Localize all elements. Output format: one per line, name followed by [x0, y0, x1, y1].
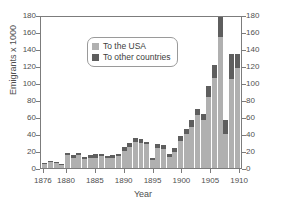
- y-tick-left-80: 80: [10, 97, 36, 105]
- bar-segment-other-1907: [218, 17, 223, 37]
- y-tick-right-180: 180: [246, 12, 276, 20]
- y-tick-right-40: 40: [246, 131, 276, 139]
- y-tickmark-right-80: [242, 101, 246, 102]
- bar-segment-usa-1907: [218, 37, 223, 168]
- bar-segment-other-1906: [212, 65, 217, 78]
- bar-segment-usa-1908: [223, 134, 228, 168]
- bar-1910: [235, 17, 240, 168]
- bar-segment-other-1910: [235, 54, 240, 68]
- y-tickmark-left-0: [36, 169, 40, 170]
- bar-1880: [65, 17, 70, 168]
- bar-1907: [218, 17, 223, 168]
- bar-segment-usa-1906: [212, 78, 217, 168]
- y-tickmark-right-60: [242, 118, 246, 119]
- bar-segment-usa-1903: [195, 115, 200, 168]
- bar-1909: [229, 17, 234, 168]
- x-tick-1905: 1905: [201, 176, 219, 185]
- x-tick-1890: 1890: [115, 176, 133, 185]
- bar-segment-usa-1876: [42, 164, 47, 168]
- bar-segment-usa-1881: [71, 158, 76, 168]
- y-tickmark-left-160: [36, 33, 40, 34]
- x-tickmark-1895: [153, 169, 154, 173]
- bar-1900: [178, 17, 183, 168]
- x-tickmark-1910: [239, 169, 240, 173]
- bar-segment-usa-1904: [201, 120, 206, 168]
- bar-segment-usa-1890: [122, 151, 127, 168]
- y-tickmark-right-40: [242, 135, 246, 136]
- bar-segment-usa-1886: [99, 156, 104, 168]
- x-axis-label: Year: [0, 189, 286, 199]
- y-tick-right-140: 140: [246, 46, 276, 54]
- y-tickmark-right-160: [242, 33, 246, 34]
- y-tickmark-right-120: [242, 67, 246, 68]
- x-tick-1910: 1910: [230, 176, 248, 185]
- bar-segment-usa-1882: [76, 155, 81, 168]
- y-tick-right-60: 60: [246, 114, 276, 122]
- y-tick-left-120: 120: [10, 63, 36, 71]
- x-tick-1876: 1876: [34, 176, 52, 185]
- bar-segment-usa-1880: [65, 155, 70, 168]
- y-tickmark-right-100: [242, 84, 246, 85]
- y-tick-right-20: 20: [246, 148, 276, 156]
- plot-area: To the USA To other countries: [40, 16, 242, 169]
- bar-segment-usa-1897: [161, 149, 166, 168]
- bar-segment-usa-1887: [105, 158, 110, 168]
- bar-segment-other-1905: [206, 86, 211, 96]
- bar-segment-usa-1895: [150, 160, 155, 169]
- bar-segment-usa-1885: [93, 158, 98, 168]
- y-tickmark-left-20: [36, 152, 40, 153]
- bar-1877: [48, 17, 53, 168]
- y-tickmark-left-140: [36, 50, 40, 51]
- bar-segment-usa-1879: [59, 165, 64, 168]
- y-tick-left-20: 20: [10, 148, 36, 156]
- bar-1883: [82, 17, 87, 168]
- bar-segment-usa-1888: [110, 158, 115, 168]
- x-tickmark-1880: [66, 169, 67, 173]
- bar-segment-usa-1896: [155, 148, 160, 168]
- y-tick-right-100: 100: [246, 80, 276, 88]
- y-tickmark-right-20: [242, 152, 246, 153]
- bar-segment-usa-1893: [139, 143, 144, 169]
- bar-1902: [189, 17, 194, 168]
- x-tickmark-1876: [43, 169, 44, 173]
- bar-segment-usa-1910: [235, 68, 240, 168]
- y-tick-right-0: 0: [246, 165, 276, 173]
- x-tick-1900: 1900: [172, 176, 190, 185]
- y-tick-left-140: 140: [10, 46, 36, 54]
- legend-label-other: To other countries: [103, 53, 171, 62]
- y-tick-right-80: 80: [246, 97, 276, 105]
- bar-1882: [76, 17, 81, 168]
- bar-segment-usa-1901: [184, 134, 189, 168]
- bar-segment-usa-1884: [88, 158, 93, 168]
- y-tickmark-right-180: [242, 16, 246, 17]
- bar-segment-usa-1877: [48, 162, 53, 168]
- y-tick-left-0: 0: [10, 165, 36, 173]
- bar-segment-other-1902: [189, 120, 194, 127]
- bar-1906: [212, 17, 217, 168]
- bar-segment-usa-1878: [54, 163, 59, 168]
- bar-segment-usa-1883: [82, 159, 87, 168]
- legend-item-other: To other countries: [92, 52, 171, 63]
- y-tickmark-left-60: [36, 118, 40, 119]
- y-tickmark-right-0: [242, 169, 246, 170]
- bar-1904: [201, 17, 206, 168]
- x-tick-1895: 1895: [144, 176, 162, 185]
- bar-1881: [71, 17, 76, 168]
- bar-1905: [206, 17, 211, 168]
- y-tickmark-left-100: [36, 84, 40, 85]
- y-tickmark-left-40: [36, 135, 40, 136]
- bar-segment-usa-1899: [172, 152, 177, 168]
- bar-segment-usa-1894: [144, 144, 149, 168]
- legend-item-usa: To the USA: [92, 41, 171, 52]
- bar-segment-usa-1892: [133, 142, 138, 168]
- bar-segment-other-1909: [229, 54, 234, 79]
- y-tick-left-40: 40: [10, 131, 36, 139]
- bar-1901: [184, 17, 189, 168]
- bar-segment-usa-1898: [167, 157, 172, 168]
- y-tickmark-left-120: [36, 67, 40, 68]
- x-tickmark-1905: [210, 169, 211, 173]
- x-tickmark-1890: [124, 169, 125, 173]
- bar-segment-other-1903: [195, 109, 200, 116]
- y-tick-left-160: 160: [10, 29, 36, 37]
- legend-label-usa: To the USA: [103, 42, 146, 51]
